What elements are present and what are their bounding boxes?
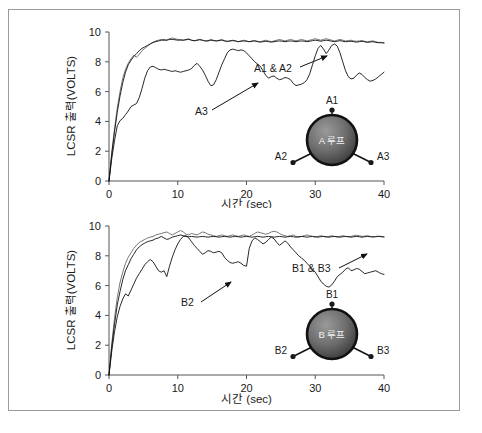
y-tick-label: 8	[95, 56, 101, 68]
node-b2-label: B2	[275, 345, 288, 356]
y-tick-label: 0	[95, 175, 101, 187]
annotation-b1-b3-arrow	[339, 254, 367, 268]
chart-panel-a: 0 10 20 30 40 0 2 4 6 8 10 시간 (sec) LCSR…	[9, 12, 459, 208]
y-tick-label: 10	[89, 220, 101, 232]
annotation-b2-label: B2	[181, 296, 194, 308]
y-tick-label: 2	[95, 145, 101, 157]
annotation-a3-label: A3	[195, 105, 208, 117]
y-tick-label: 8	[95, 250, 101, 262]
annotation-a1-a2-arrow	[300, 56, 327, 67]
loop-diagram-b: B 루프 B1 B2 B3	[275, 289, 390, 359]
y-tick-labels-a: 0 2 4 6 8 10	[89, 26, 101, 187]
node-b2-terminal	[290, 354, 295, 359]
node-a3-terminal	[368, 160, 373, 165]
node-a1-terminal	[329, 107, 334, 112]
x-tick-label: 40	[378, 188, 390, 200]
node-b3-label: B3	[377, 345, 390, 356]
node-a2-terminal	[290, 160, 295, 165]
node-a3-label: A3	[377, 151, 390, 162]
x-tick-label: 30	[309, 188, 321, 200]
y-tick-label: 6	[95, 280, 101, 292]
chart-panel-b: 0 10 20 30 40 0 2 4 6 8 10 시간 (sec) LCSR…	[9, 206, 459, 406]
x-tick-label: 10	[172, 382, 184, 394]
figure-frame: 0 10 20 30 40 0 2 4 6 8 10 시간 (sec) LCSR…	[8, 9, 460, 411]
x-axis-title: 시간 (sec)	[221, 393, 272, 405]
chart-svg-b: 0 10 20 30 40 0 2 4 6 8 10 시간 (sec) LCSR…	[9, 206, 459, 406]
x-ticks-b	[109, 375, 384, 379]
node-a1-label: A1	[326, 95, 339, 106]
y-tick-label: 6	[95, 86, 101, 98]
y-tick-label: 2	[95, 339, 101, 351]
annotations-b: B1 & B3 B2	[181, 254, 367, 308]
loop-diagram-a: A 루프 A1 A2 A3	[275, 95, 390, 165]
node-b1-terminal	[329, 301, 334, 306]
y-tick-label: 4	[95, 115, 101, 127]
y-axis-title: LCSR 출력(VOLTS)	[65, 250, 77, 351]
annotation-a1-a2-label: A1 & A2	[254, 62, 292, 74]
y-ticks-a	[105, 32, 109, 181]
chart-svg-a: 0 10 20 30 40 0 2 4 6 8 10 시간 (sec) LCSR…	[9, 12, 459, 208]
node-b3-terminal	[368, 354, 373, 359]
loop-label-a: A 루프	[319, 135, 345, 146]
x-tick-label: 0	[106, 382, 112, 394]
x-tick-label: 10	[172, 188, 184, 200]
y-tick-label: 4	[95, 309, 101, 321]
y-tick-label: 0	[95, 369, 101, 381]
loop-label-b: B 루프	[319, 329, 346, 340]
x-tick-label: 0	[106, 188, 112, 200]
x-tick-label: 40	[378, 382, 390, 394]
y-axis-title: LCSR 출력(VOLTS)	[65, 56, 77, 157]
x-tick-label: 30	[309, 382, 321, 394]
y-tick-label: 10	[89, 26, 101, 38]
y-ticks-b	[105, 226, 109, 375]
annotations-a: A1 & A2 A3	[195, 56, 327, 117]
annotation-b2-arrow	[201, 282, 231, 302]
x-ticks-a	[109, 181, 384, 185]
annotation-a3-arrow	[212, 83, 258, 110]
y-tick-labels-b: 0 2 4 6 8 10	[89, 220, 101, 381]
node-a2-label: A2	[275, 151, 288, 162]
node-b1-label: B1	[326, 289, 339, 300]
annotation-b1-b3-label: B1 & B3	[292, 262, 331, 274]
